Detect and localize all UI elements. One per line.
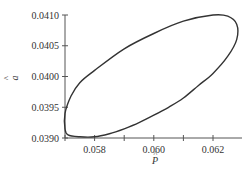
ellipse-curve [64,15,237,137]
y-tick-label: 0.0390 [32,133,60,144]
x-tick-label: 0.058 [83,144,106,155]
chart-svg: 0.04100.04050.04000.03950.0390 0.0580.06… [0,0,252,183]
y-axis-hat: ^ [3,76,12,80]
y-axis-label-group: a ^ [3,76,20,81]
y-tick-label: 0.0395 [32,102,60,113]
y-ticks: 0.04100.04050.04000.03950.0390 [32,10,69,144]
x-tick-label: 0.062 [202,144,225,155]
y-tick-label: 0.0410 [32,10,60,21]
y-tick-label: 0.0400 [32,71,60,82]
y-tick-label: 0.0405 [32,40,60,51]
x-axis-hat: ^ [154,150,158,159]
